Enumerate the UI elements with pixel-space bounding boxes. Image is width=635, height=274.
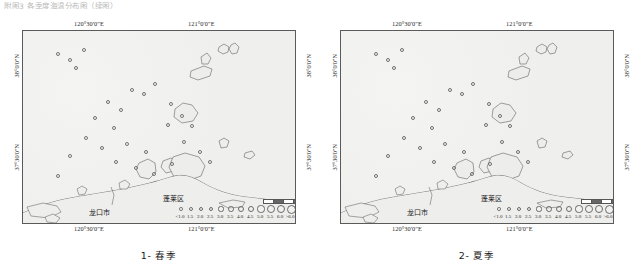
legend-symbol (595, 205, 603, 213)
data-point (68, 58, 72, 62)
data-point (82, 48, 86, 52)
data-point (130, 88, 134, 92)
data-point (125, 142, 129, 146)
legend-label: >6.0 (281, 214, 296, 219)
data-point (152, 172, 156, 176)
place-label-penglai-2: 蓬莱区 (481, 193, 502, 203)
legend-symbol (209, 207, 214, 212)
lon-label-top-left-1: 120°30'0"E (74, 20, 104, 27)
lat-label-left-top-1: 38°0'0"N (13, 54, 20, 77)
map-panels-container: 120°30'0"E 121°0'0"E 120°30'0"E 121°0'0"… (0, 16, 635, 274)
lat-label-left-bottom-1: 37°30'0"N (13, 144, 20, 171)
legend-symbol (575, 205, 582, 212)
coastline-vector-1 (23, 31, 295, 223)
legend-symbol (238, 206, 244, 212)
data-point (112, 126, 116, 130)
lon-label-top-right-2: 121°0'0"E (506, 20, 533, 27)
legend-symbol (277, 205, 285, 213)
coastline-vector-2 (341, 31, 613, 223)
legend-symbol (497, 207, 501, 211)
place-label-longkou-1: 龙口市 (89, 207, 110, 217)
lon-label-top-right-1: 121°0'0"E (188, 20, 215, 27)
lon-label-bottom-right-1: 121°0'0"E (188, 225, 215, 232)
map-frame-1[interactable]: 龙口市 蓬莱区 <1.01.52.02.53.03.54.04.55.05.56… (22, 30, 296, 224)
place-label-penglai-1: 蓬莱区 (163, 193, 184, 203)
data-point (182, 140, 186, 144)
legend-symbol (257, 205, 264, 212)
lat-label-left-top-2: 38°0'0"N (331, 54, 338, 77)
data-point (56, 52, 60, 56)
data-point (119, 108, 123, 112)
legend-symbol (517, 207, 521, 211)
legend-symbol (228, 206, 234, 212)
legend-symbol (267, 205, 275, 213)
lat-label-right-bottom-2: 37°30'0"N (623, 144, 630, 171)
data-point (68, 154, 72, 158)
figure-top-caption: 附图3 各季度海温分布图（续图） (4, 0, 334, 9)
data-point (198, 150, 202, 154)
data-point (134, 166, 138, 170)
lat-label-right-top-2: 38°0'0"N (623, 54, 630, 77)
lat-label-right-bottom-1: 37°30'0"N (305, 144, 312, 171)
legend-symbol (556, 206, 562, 212)
legend-symbol (605, 205, 614, 214)
legend-symbol (218, 206, 223, 211)
map-panel-1: 120°30'0"E 121°0'0"E 120°30'0"E 121°0'0"… (0, 16, 317, 274)
legend-symbol (566, 206, 573, 213)
lat-label-left-bottom-2: 37°30'0"N (331, 144, 338, 171)
lat-label-right-top-1: 38°0'0"N (305, 54, 312, 77)
data-point (84, 136, 88, 140)
lon-label-bottom-left-1: 120°30'0"E (74, 225, 104, 232)
legend-symbol-row-2: <1.01.52.02.53.03.54.04.55.05.56.0>6.0 (493, 203, 613, 214)
lon-label-bottom-right-2: 121°0'0"E (506, 225, 533, 232)
legend-symbol (199, 207, 203, 211)
place-label-longkou-2: 龙口市 (407, 207, 428, 217)
panel-caption-2: 2- 夏季 (318, 248, 635, 262)
legend-symbol-row-1: <1.01.52.02.53.03.54.04.55.05.56.0>6.0 (175, 203, 295, 214)
legend-symbol (179, 207, 183, 211)
legend-symbol (527, 207, 532, 212)
legend-2: <1.01.52.02.53.03.54.04.55.05.56.0>6.0 (493, 203, 613, 223)
data-point (56, 174, 60, 178)
legend-label: >6.0 (599, 214, 614, 219)
data-point (169, 102, 173, 106)
legend-symbol (546, 206, 552, 212)
legend-symbol (585, 205, 593, 213)
data-point (190, 124, 194, 128)
legend-symbol (189, 207, 193, 211)
legend-symbol (536, 206, 541, 211)
map-panel-2: 120°30'0"E 121°0'0"E 120°30'0"E 121°0'0"… (318, 16, 635, 274)
panel-caption-1: 1- 春季 (0, 248, 317, 262)
data-point (208, 160, 212, 164)
legend-symbol (507, 207, 511, 211)
map-frame-2[interactable]: 龙口市 蓬莱区 <1.01.52.02.53.03.54.04.55.05.56… (340, 30, 614, 224)
data-point (180, 114, 184, 118)
legend-symbol (248, 206, 255, 213)
legend-1: <1.01.52.02.53.03.54.04.55.05.56.0>6.0 (175, 203, 295, 223)
lon-label-top-left-2: 120°30'0"E (392, 20, 422, 27)
data-point (153, 82, 157, 86)
legend-symbol (287, 205, 296, 214)
lon-label-bottom-left-2: 120°30'0"E (392, 225, 422, 232)
